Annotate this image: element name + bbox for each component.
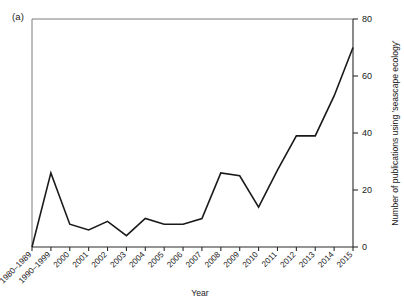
x-axis-tick-labels: 1980–19891990–19992000200120022003200420…	[0, 250, 355, 286]
x-tick-label-6: 2003	[109, 250, 129, 270]
x-tick-label-13: 2010	[241, 250, 261, 270]
x-tick-label-11: 2008	[203, 250, 223, 270]
y-tick-label-0: 0	[362, 242, 367, 252]
x-tick-label-17: 2014	[316, 250, 336, 270]
x-tick-label-14: 2011	[260, 250, 279, 269]
x-tick-label-9: 2006	[165, 250, 185, 270]
data-series-line	[32, 48, 353, 248]
y-tick-label-40: 40	[362, 128, 372, 138]
plot-frame	[32, 19, 353, 247]
y-axis-ticks	[353, 19, 358, 247]
x-axis-ticks	[32, 247, 353, 251]
y-tick-label-60: 60	[362, 71, 372, 81]
x-tick-label-15: 2012	[279, 250, 299, 270]
line-chart: 0 20 40 60 80 Number of publications usi…	[0, 0, 404, 306]
figure-panel-a: (a) 0 20 40 60 80 Number of publications…	[0, 0, 404, 306]
x-tick-label-3: 2000	[52, 250, 72, 270]
x-tick-label-16: 2013	[297, 250, 317, 270]
x-tick-label-5: 2002	[90, 250, 110, 270]
x-tick-label-7: 2004	[127, 250, 147, 270]
x-axis-title: Year	[191, 288, 209, 298]
x-tick-label-10: 2007	[184, 250, 204, 270]
x-tick-label-8: 2005	[146, 250, 166, 270]
y-axis-title: Number of publications using 'seascape e…	[390, 40, 400, 226]
y-tick-label-20: 20	[362, 185, 372, 195]
x-tick-label-18: 2015	[335, 250, 355, 270]
x-tick-label-4: 2001	[71, 250, 91, 270]
y-axis-tick-labels: 0 20 40 60 80	[362, 14, 372, 252]
x-tick-label-12: 2009	[222, 250, 242, 270]
y-tick-label-80: 80	[362, 14, 372, 24]
